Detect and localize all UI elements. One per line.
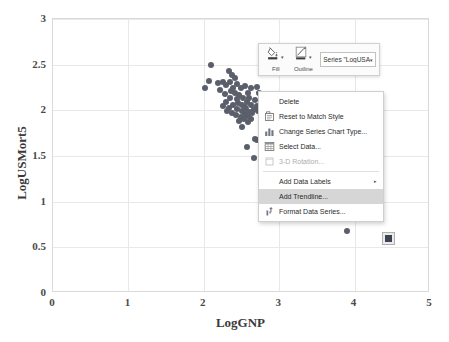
x-axis-tick-label: 4 <box>339 296 369 308</box>
menu-item-label: Select Data... <box>279 142 321 151</box>
chevron-down-icon[interactable]: ▾ <box>370 57 373 63</box>
x-axis-tick-label: 3 <box>263 296 293 308</box>
fill-button[interactable]: ▾ Fill <box>262 45 290 75</box>
format-icon <box>262 205 276 218</box>
scatter-data-point[interactable] <box>202 85 208 91</box>
outline-button-label: Outline <box>294 65 313 73</box>
x-axis-tick-label: 5 <box>414 296 444 308</box>
mini-format-toolbar[interactable]: ▾ Fill ▾ Outline Series "LogUSA ▾ <box>258 43 380 76</box>
menu-item-reset-match-style[interactable]: Reset to Match Style <box>259 109 383 124</box>
menu-item-select-data[interactable]: Select Data... <box>259 139 383 154</box>
table-icon <box>262 140 276 153</box>
scatter-data-point[interactable] <box>206 78 212 84</box>
menu-item-label: Change Series Chart Type... <box>279 127 367 136</box>
y-axis-tick-label: 3 <box>6 12 46 24</box>
menu-item-label: Delete <box>279 97 299 106</box>
reset-icon <box>262 110 276 123</box>
menu-item-icon-placeholder <box>262 190 276 203</box>
outline-pencil-icon <box>295 46 308 64</box>
fill-button-label: Fill <box>272 65 280 73</box>
scatter-data-point[interactable] <box>223 82 229 88</box>
x-axis-tick-label: 0 <box>37 296 67 308</box>
y-axis-title: LogUSMort5 <box>14 93 30 233</box>
scatter-data-point[interactable] <box>254 84 260 90</box>
series-selector-dropdown[interactable]: Series "LogUSA ▾ <box>320 52 376 67</box>
menu-item-icon-placeholder <box>262 175 276 188</box>
scatter-data-point[interactable] <box>244 144 250 150</box>
scatter-data-point[interactable] <box>248 116 254 122</box>
x-axis-title: LogGNP <box>52 315 429 331</box>
menu-item-label: Format Data Series... <box>279 207 346 216</box>
horizontal-gridline <box>53 19 428 20</box>
y-axis-tick-label: 0.5 <box>6 240 46 252</box>
scatter-data-point[interactable] <box>242 104 248 110</box>
series-selector-value: Series "LogUSA <box>323 56 370 63</box>
bar-chart-icon <box>262 125 276 138</box>
menu-item-label: Add Trendline... <box>279 192 328 201</box>
scatter-data-point[interactable] <box>208 62 214 68</box>
scatter-data-point[interactable] <box>222 91 228 97</box>
scatter-data-point[interactable] <box>239 124 245 130</box>
x-axis-tick-label: 2 <box>188 296 218 308</box>
outline-caret-icon[interactable]: ▾ <box>309 50 312 64</box>
menu-item-icon-placeholder <box>262 95 276 108</box>
horizontal-gridline <box>53 247 428 248</box>
scatter-data-point[interactable] <box>251 155 257 161</box>
menu-item-label: Reset to Match Style <box>279 112 344 121</box>
selected-data-point[interactable] <box>385 235 392 242</box>
y-axis-tick-label: 2.5 <box>6 58 46 70</box>
outline-button[interactable]: ▾ Outline <box>290 45 318 75</box>
x-axis-tick-label: 1 <box>112 296 142 308</box>
menu-item-label: Add Data Labels <box>279 177 331 186</box>
vertical-gridline <box>204 19 205 291</box>
vertical-gridline <box>128 19 129 291</box>
scatter-data-point[interactable] <box>344 228 350 234</box>
cube-icon <box>262 155 276 168</box>
submenu-arrow-icon[interactable]: ▸ <box>374 177 377 186</box>
menu-item-add-trendline[interactable]: Add Trendline... <box>259 189 383 204</box>
menu-item-3d-rotation: 3-D Rotation... <box>259 154 383 169</box>
fill-bucket-icon <box>267 46 280 64</box>
menu-separator <box>263 171 379 172</box>
menu-item-format-data-series[interactable]: Format Data Series... <box>259 204 383 219</box>
menu-item-add-data-labels[interactable]: Add Data Labels▸ <box>259 174 383 189</box>
menu-item-label: 3-D Rotation... <box>279 157 324 166</box>
menu-item-delete[interactable]: Delete <box>259 94 383 109</box>
fill-caret-icon[interactable]: ▾ <box>281 50 284 64</box>
menu-item-change-chart-type[interactable]: Change Series Chart Type... <box>259 124 383 139</box>
chart-context-menu[interactable]: DeleteReset to Match StyleChange Series … <box>258 91 384 222</box>
